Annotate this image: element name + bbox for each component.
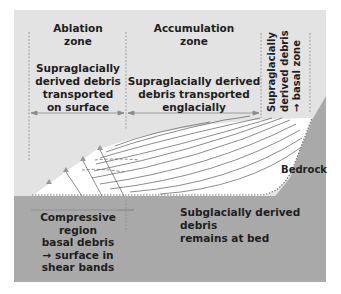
headwall-zone-description: Supraglacially derived debris → basal zo… — [266, 30, 304, 112]
accumulation-zone-description: Supraglacially derived debris transporte… — [126, 75, 262, 114]
ablation-zone-description: Supraglacially derived debris transporte… — [30, 62, 126, 114]
accumulation-zone-title: Accumulation zone — [128, 22, 260, 48]
bedrock-label: Bedrock — [276, 163, 332, 176]
subglacial-debris-label: Subglacially derived debris remains at b… — [180, 206, 320, 245]
ablation-zone-title: Ablation zone — [30, 22, 126, 48]
compressive-region-label: Compressive region basal debris → surfac… — [30, 211, 126, 274]
